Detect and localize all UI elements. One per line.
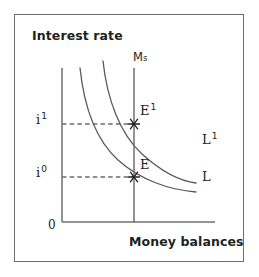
interest-rate-low-sup: 0: [41, 164, 47, 174]
y-axis-title: Interest rate: [32, 30, 123, 43]
interest-rate-high-label: i1: [36, 113, 47, 126]
money-demand-curve-l: [80, 68, 196, 192]
equilibrium-high-base: E: [140, 103, 150, 118]
origin-label: 0: [48, 219, 56, 231]
interest-rate-high-sup: 1: [41, 111, 47, 121]
equilibrium-low-base: E: [140, 157, 150, 172]
demand-curve-high-sup: 1: [212, 131, 218, 141]
money-market-diagram: Interest rate Ms i1 i0 E1 E L1 L 0 Money…: [0, 0, 259, 277]
interest-rate-low-label: i0: [36, 166, 47, 179]
equilibrium-high-label: E1: [140, 104, 156, 117]
money-supply-label-sub: s: [143, 53, 147, 63]
x-axis-title: Money balances: [129, 236, 244, 249]
demand-curve-low-base: L: [202, 169, 211, 184]
equilibrium-low-label: E: [140, 158, 150, 171]
demand-curve-low-label: L: [202, 170, 211, 183]
demand-curve-high-base: L: [202, 132, 211, 147]
demand-curve-high-label: L1: [202, 133, 217, 146]
interest-rate-high-base: i: [36, 112, 40, 127]
money-demand-curve-l1: [103, 61, 196, 183]
interest-rate-low-base: i: [36, 165, 40, 180]
equilibrium-high-sup: 1: [151, 102, 157, 112]
money-supply-label-base: M: [133, 50, 143, 64]
money-supply-label: Ms: [133, 52, 147, 64]
